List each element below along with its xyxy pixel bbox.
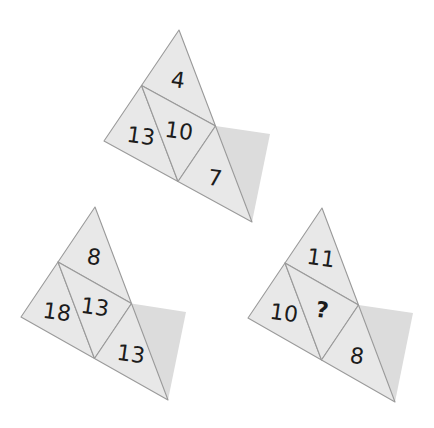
- triangle-figure-1: 4 13 10 7: [104, 30, 270, 222]
- cell-left-value: 10: [268, 299, 299, 328]
- cell-left-value: 18: [41, 298, 72, 327]
- cell-left-value: 13: [125, 122, 156, 151]
- puzzle-canvas: 4 13 10 7 8 18 13 13 11 10 ? 8: [0, 0, 434, 428]
- cell-center-value: 13: [79, 293, 110, 322]
- cell-top-value: 11: [305, 244, 336, 273]
- cell-center-value: 10: [163, 117, 194, 146]
- triangle-figure-2: 8 18 13 13: [21, 207, 186, 400]
- cell-right-value: 13: [115, 340, 146, 369]
- triangle-figure-3: 11 10 ? 8: [248, 208, 413, 402]
